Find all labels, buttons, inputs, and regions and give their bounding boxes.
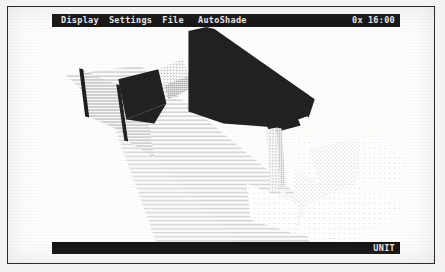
- menu-item-display[interactable]: Display: [56, 14, 104, 27]
- screenshot-root: Display Settings File AutoShade 0x 16:00…: [0, 0, 445, 272]
- menu-bar-left-group: Display Settings File: [56, 14, 189, 27]
- menu-item-settings[interactable]: Settings: [104, 14, 157, 27]
- crt-screen-frame: Display Settings File AutoShade 0x 16:00…: [7, 6, 435, 264]
- render-viewport[interactable]: [8, 7, 434, 263]
- menu-bar-right-group: 0x 16:00: [352, 14, 395, 27]
- menu-item-file[interactable]: File: [157, 14, 189, 27]
- status-unit-label: UNIT: [373, 242, 395, 254]
- menu-bar[interactable]: Display Settings File AutoShade 0x 16:00: [52, 14, 400, 27]
- app-title: AutoShade: [198, 14, 247, 27]
- render-canvas: [8, 7, 434, 263]
- status-bar[interactable]: UNIT: [52, 242, 400, 254]
- zoom-level-readout: 0x: [352, 14, 363, 27]
- clock-readout: 16:00: [368, 14, 395, 27]
